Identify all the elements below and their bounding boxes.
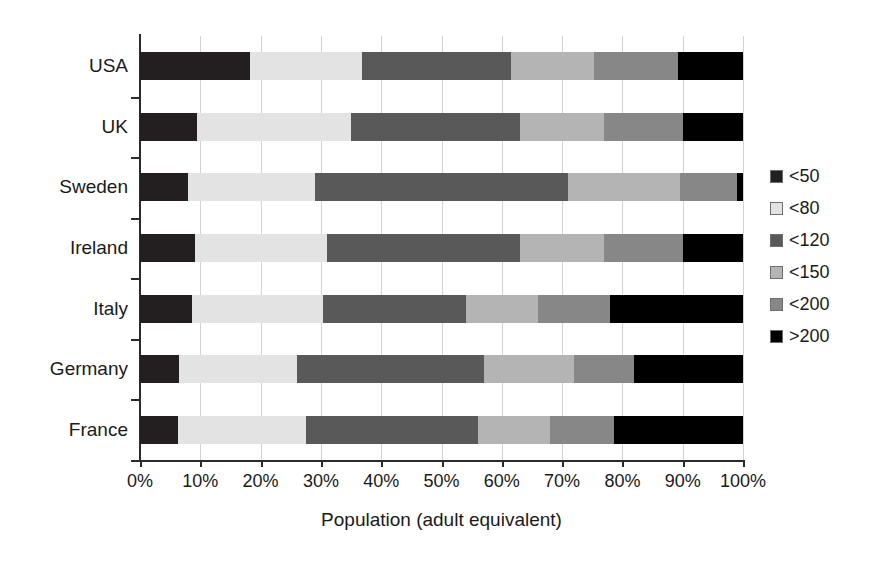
legend-label: <50 (789, 167, 820, 185)
y-axis-category-label: Sweden (8, 177, 128, 196)
x-tick-mark (622, 460, 624, 467)
bar-segment[interactable] (574, 355, 634, 383)
x-tick-label: 60% (484, 470, 520, 492)
bar-segment[interactable] (351, 113, 520, 141)
bar-segment[interactable] (297, 355, 484, 383)
bar-segment[interactable] (306, 416, 477, 444)
x-tick-label: 20% (243, 470, 279, 492)
bar-segment[interactable] (614, 416, 743, 444)
bar-segment[interactable] (140, 52, 250, 80)
y-tick-mark (131, 399, 140, 401)
bar-segment[interactable] (195, 234, 326, 262)
bar-segment[interactable] (188, 173, 315, 201)
x-tick-mark (743, 460, 745, 467)
x-tick-label: 80% (604, 470, 640, 492)
bar-segment[interactable] (610, 295, 743, 323)
x-tick-label: 90% (665, 470, 701, 492)
legend-label: <80 (789, 199, 820, 217)
legend-item[interactable]: <80 (770, 192, 875, 224)
bar-segment[interactable] (538, 295, 610, 323)
bar-segment[interactable] (140, 416, 178, 444)
bar-segment[interactable] (478, 416, 550, 444)
bar-segment[interactable] (140, 355, 179, 383)
legend-item[interactable]: <120 (770, 224, 875, 256)
x-tick-label: 50% (423, 470, 459, 492)
y-axis-category-label: Germany (8, 359, 128, 378)
legend-swatch-icon (770, 298, 783, 311)
bar-group (140, 234, 743, 262)
bar-segment[interactable] (520, 234, 604, 262)
bar-track (140, 173, 743, 201)
y-tick-mark (131, 157, 140, 159)
stacked-bar-chart: USAUKSwedenIrelandItalyGermanyFrance 0%1… (0, 0, 880, 565)
bar-segment[interactable] (737, 173, 743, 201)
x-tick-label: 10% (182, 470, 218, 492)
bar-track (140, 234, 743, 262)
x-axis-title: Population (adult equivalent) (140, 508, 743, 532)
x-tick-mark (683, 460, 685, 467)
bar-segment[interactable] (634, 355, 743, 383)
bar-segment[interactable] (178, 416, 306, 444)
bar-segment[interactable] (327, 234, 520, 262)
x-tick-label: 30% (303, 470, 339, 492)
x-tick-label: 40% (363, 470, 399, 492)
legend-item[interactable]: <50 (770, 160, 875, 192)
bar-group (140, 416, 743, 444)
bar-segment[interactable] (466, 295, 538, 323)
bar-segment[interactable] (678, 52, 743, 80)
bar-segment[interactable] (179, 355, 297, 383)
bar-segment[interactable] (197, 113, 351, 141)
legend-swatch-icon (770, 234, 783, 247)
bar-segment[interactable] (550, 416, 614, 444)
bar-segment[interactable] (594, 52, 678, 80)
gridline (743, 36, 744, 460)
bar-group (140, 173, 743, 201)
y-tick-mark (131, 339, 140, 341)
y-axis-category-label: Italy (8, 299, 128, 318)
bar-track (140, 416, 743, 444)
bar-segment[interactable] (140, 173, 188, 201)
y-tick-mark (131, 278, 140, 280)
y-tick-mark (131, 460, 140, 462)
bar-segment[interactable] (140, 113, 197, 141)
y-axis-category-label: Ireland (8, 238, 128, 257)
y-axis-category-label: France (8, 420, 128, 439)
bar-group (140, 295, 743, 323)
y-tick-mark (131, 97, 140, 99)
legend-item[interactable]: <200 (770, 288, 875, 320)
bar-segment[interactable] (140, 234, 195, 262)
bar-segment[interactable] (604, 113, 682, 141)
plot-area (140, 36, 743, 460)
bar-group (140, 52, 743, 80)
bar-segment[interactable] (323, 295, 465, 323)
legend-item[interactable]: >200 (770, 320, 875, 352)
legend-label: <150 (789, 263, 830, 281)
x-tick-label: 100% (720, 470, 766, 492)
bar-segment[interactable] (315, 173, 568, 201)
x-tick-mark (381, 460, 383, 467)
bar-segment[interactable] (683, 113, 743, 141)
x-tick-mark (140, 460, 142, 467)
legend-item[interactable]: <150 (770, 256, 875, 288)
bar-segment[interactable] (362, 52, 511, 80)
x-tick-mark (321, 460, 323, 467)
legend-label: <120 (789, 231, 830, 249)
legend: <50<80<120<150<200>200 (770, 160, 875, 352)
bar-segment[interactable] (484, 355, 574, 383)
bar-segment[interactable] (568, 173, 680, 201)
bar-group (140, 355, 743, 383)
bar-segment[interactable] (680, 173, 737, 201)
bar-segment[interactable] (192, 295, 323, 323)
x-tick-mark (442, 460, 444, 467)
legend-label: <200 (789, 295, 830, 313)
bar-segment[interactable] (140, 295, 192, 323)
legend-swatch-icon (770, 330, 783, 343)
x-tick-mark (200, 460, 202, 467)
y-axis-category-labels: USAUKSwedenIrelandItalyGermanyFrance (0, 36, 128, 460)
bar-segment[interactable] (520, 113, 604, 141)
y-axis-category-label: UK (8, 117, 128, 136)
bar-segment[interactable] (511, 52, 594, 80)
bar-segment[interactable] (604, 234, 682, 262)
bar-segment[interactable] (250, 52, 362, 80)
bar-segment[interactable] (683, 234, 743, 262)
